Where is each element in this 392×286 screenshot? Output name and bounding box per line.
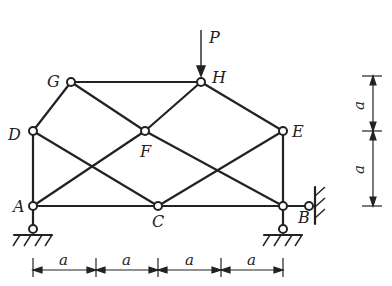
label-H: H (212, 70, 226, 86)
node-B (279, 202, 287, 210)
node-G (67, 78, 75, 86)
dim-v-2: a (352, 165, 367, 174)
label-P: P (209, 30, 220, 46)
node-A (29, 202, 37, 210)
label-B: B (298, 210, 310, 226)
truss-diagram (0, 0, 392, 286)
dim-h-3: a (185, 253, 194, 268)
dim-h-1: a (59, 253, 68, 268)
node-H (197, 78, 205, 86)
node-D (29, 127, 37, 135)
label-A: A (13, 199, 25, 215)
dim-h-4: a (247, 253, 256, 268)
label-C: C (152, 214, 164, 230)
label-D: D (8, 127, 21, 143)
label-E: E (292, 124, 304, 140)
member-FH (145, 82, 201, 131)
member-HE (201, 82, 283, 131)
dim-h-2: a (122, 253, 131, 268)
label-G: G (47, 74, 60, 90)
label-F: F (140, 144, 151, 160)
node-F (141, 127, 149, 135)
node-C (154, 202, 162, 210)
member-GF (71, 82, 145, 131)
dim-v-1: a (352, 101, 367, 110)
node-E (279, 127, 287, 135)
